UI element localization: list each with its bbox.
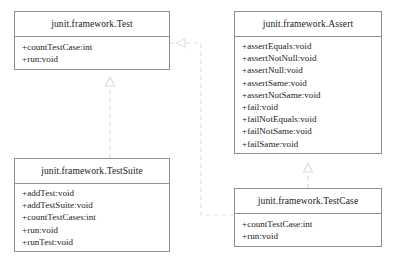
connector-test-to-testcase bbox=[170, 39, 234, 215]
class-member: +addTest:void bbox=[15, 187, 169, 199]
class-name-testcase: junit.framework.TestCase bbox=[235, 189, 381, 214]
hollow-triangle-arrowhead-test-right bbox=[176, 39, 185, 48]
class-member: +countTestCase:int bbox=[15, 41, 169, 53]
class-member: +assertSame:void bbox=[235, 77, 381, 89]
class-member: +addTestSuite:void bbox=[15, 199, 169, 211]
class-member: +assertNull:void bbox=[235, 64, 381, 76]
class-member: +run:void bbox=[15, 224, 169, 236]
class-name-test: junit.framework.Test bbox=[15, 12, 169, 37]
class-members-testsuite: +addTest:void +addTestSuite:void +countT… bbox=[15, 184, 169, 251]
class-members-test: +countTestCase:int +run:void bbox=[15, 37, 169, 69]
class-name-testsuite: junit.framework.TestSuite bbox=[15, 159, 169, 184]
class-box-test[interactable]: junit.framework.Test +countTestCase:int … bbox=[14, 11, 170, 70]
connector-assert-to-testcase bbox=[304, 163, 313, 188]
class-member: +assertNotSame:void bbox=[235, 89, 381, 101]
class-member: +run:void bbox=[235, 230, 381, 242]
connector-testsuite-to-test bbox=[106, 77, 115, 158]
class-member: +countTestCase:int bbox=[235, 218, 381, 230]
class-member: +assertNotNull:void bbox=[235, 52, 381, 64]
class-box-testcase[interactable]: junit.framework.TestCase +countTestCase:… bbox=[234, 188, 382, 247]
class-members-assert: +assertEquals:void +assertNotNull:void +… bbox=[235, 37, 381, 153]
hollow-triangle-arrowhead-test bbox=[106, 77, 115, 86]
class-member: +fail:void bbox=[235, 101, 381, 113]
class-member: +failSame:void bbox=[235, 138, 381, 150]
class-member: +assertEquals:void bbox=[235, 40, 381, 52]
class-member: +run:void bbox=[15, 53, 169, 65]
uml-diagram-canvas: junit.framework.Test +countTestCase:int … bbox=[0, 0, 396, 267]
class-member: +failNotEquals:void bbox=[235, 113, 381, 125]
class-member: +failNotSame:void bbox=[235, 125, 381, 137]
class-member: +countTestCases:int bbox=[15, 211, 169, 223]
class-name-assert: junit.framework.Assert bbox=[235, 12, 381, 37]
hollow-triangle-arrowhead-assert bbox=[304, 163, 313, 172]
class-members-testcase: +countTestCase:int +run:void bbox=[235, 214, 381, 246]
class-member: +runTest:void bbox=[15, 236, 169, 248]
class-box-testsuite[interactable]: junit.framework.TestSuite +addTest:void … bbox=[14, 158, 170, 252]
class-box-assert[interactable]: junit.framework.Assert +assertEquals:voi… bbox=[234, 11, 382, 154]
